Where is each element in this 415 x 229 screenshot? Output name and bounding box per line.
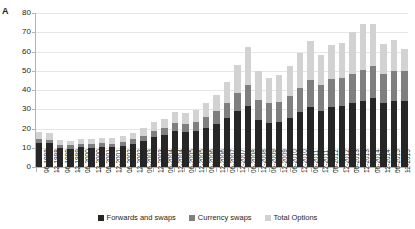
bar-segment [151, 122, 157, 131]
bar-segment [360, 70, 366, 101]
bar-column[interactable] [46, 13, 52, 167]
x-tick-label-slot: 06-2015 [387, 172, 397, 206]
y-tick-label-10: 10 [22, 144, 31, 152]
x-tick-label-slot: 06-2008 [243, 172, 253, 206]
bar-segment [307, 80, 313, 107]
x-tick-label-slot: 06-2006 [201, 172, 211, 206]
bar-column[interactable] [130, 13, 136, 167]
bar-column[interactable] [307, 13, 313, 167]
bar-column[interactable] [287, 13, 293, 167]
x-tick-label-slot: 12-2014 [377, 172, 387, 206]
bar-segment [203, 103, 209, 117]
bar-segment [182, 124, 188, 133]
bar-segment [349, 32, 355, 73]
y-tick-label-50: 50 [22, 67, 31, 75]
bar-column[interactable] [213, 13, 219, 167]
legend-label: Currency swaps [198, 214, 252, 222]
bar-segment [36, 132, 42, 139]
bar-column[interactable] [328, 13, 334, 167]
x-tick-label-slot: 12-2000 [88, 172, 98, 206]
plot-area [36, 13, 408, 167]
figure-panel-a: A 01020304050607080 06-199812-199806-199… [0, 0, 415, 229]
bar-segment [318, 85, 324, 111]
bar-segment [328, 45, 334, 80]
bar-segment [349, 74, 355, 104]
bar-column[interactable] [401, 13, 407, 167]
bar-column[interactable] [57, 13, 63, 167]
bar-segment [234, 65, 240, 93]
legend-swatch-forwards [98, 215, 104, 221]
bar-segment [255, 100, 261, 120]
bar-column[interactable] [88, 13, 94, 167]
bar-column[interactable] [193, 13, 199, 167]
bar-column[interactable] [370, 13, 376, 167]
bar-segment [380, 74, 386, 104]
bar-column[interactable] [67, 13, 73, 167]
bar-segment [339, 78, 345, 107]
bar-column[interactable] [224, 13, 230, 167]
bar-segment [172, 112, 178, 124]
bar-segment [266, 78, 272, 104]
bar-column[interactable] [109, 13, 115, 167]
bar-column[interactable] [151, 13, 157, 167]
bar-segment [318, 55, 324, 85]
x-tick-label-slot: 12-2008 [253, 172, 263, 206]
bar-column[interactable] [349, 13, 355, 167]
bar-column[interactable] [182, 13, 188, 167]
x-tick-label-slot: 12-1998 [46, 172, 56, 206]
x-tick-label-slot: 12-2001 [108, 172, 118, 206]
bar-column[interactable] [234, 13, 240, 167]
bar-column[interactable] [255, 13, 261, 167]
x-tick-label-slot: 12-2005 [191, 172, 201, 206]
bar-column[interactable] [172, 13, 178, 167]
chart-legend: Forwards and swapsCurrency swapsTotal Op… [0, 211, 415, 225]
bar-column[interactable] [99, 13, 105, 167]
bar-segment [287, 96, 293, 118]
bar-segment [401, 71, 407, 101]
bar-column[interactable] [276, 13, 282, 167]
bar-segment [328, 79, 334, 107]
y-axis-labels: 01020304050607080 [0, 0, 33, 229]
y-tick-label-30: 30 [22, 105, 31, 113]
bar-segment [255, 71, 261, 100]
bar-segment [224, 103, 230, 118]
bar-segment [203, 117, 209, 128]
bar-segment [380, 44, 386, 74]
bar-column[interactable] [380, 13, 386, 167]
bar-segment [213, 95, 219, 111]
y-tick-label-70: 70 [22, 28, 31, 36]
legend-item[interactable]: Total Options [265, 214, 318, 222]
bar-column[interactable] [161, 13, 167, 167]
bar-column[interactable] [245, 13, 251, 167]
x-tick-label: 12-2015 [404, 163, 411, 173]
bar-column[interactable] [339, 13, 345, 167]
x-tick-label-slot: 06-2010 [284, 172, 294, 206]
legend-swatch-options [265, 215, 271, 221]
legend-label: Total Options [274, 214, 318, 222]
bar-segment [193, 122, 199, 132]
x-tick-label-slot: 12-2011 [315, 172, 325, 206]
bar-column[interactable] [140, 13, 146, 167]
x-axis-labels: 06-199812-199806-199912-199906-200012-20… [36, 172, 408, 206]
x-tick-label-slot: 06-2009 [263, 172, 273, 206]
bar-column[interactable] [120, 13, 126, 167]
bar-column[interactable] [78, 13, 84, 167]
bar-column[interactable] [203, 13, 209, 167]
legend-item[interactable]: Forwards and swaps [98, 214, 176, 222]
bar-column[interactable] [318, 13, 324, 167]
x-tick-label-slot: 06-1998 [36, 172, 46, 206]
x-tick-label-slot: 06-2003 [139, 172, 149, 206]
x-tick-label-slot: 06-1999 [57, 172, 67, 206]
x-tick-label-slot: 12-2010 [294, 172, 304, 206]
bar-column[interactable] [391, 13, 397, 167]
legend-swatch-currency [189, 215, 195, 221]
bar-segment [276, 75, 282, 102]
bar-segment [193, 110, 199, 122]
bar-segment [36, 143, 42, 167]
bar-column[interactable] [266, 13, 272, 167]
legend-item[interactable]: Currency swaps [189, 214, 252, 222]
bar-column[interactable] [36, 13, 42, 167]
bar-segment [370, 24, 376, 66]
bar-column[interactable] [360, 13, 366, 167]
bar-column[interactable] [297, 13, 303, 167]
